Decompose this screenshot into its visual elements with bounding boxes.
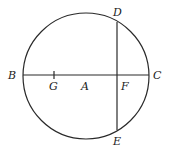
circle-diagram: B C D E G A F [0,0,173,151]
label-f: F [120,80,129,93]
label-g: G [49,80,58,93]
circle [23,13,149,139]
label-e: E [112,135,121,148]
label-d: D [112,6,122,19]
label-c: C [153,69,162,82]
label-b: B [7,69,16,82]
label-a: A [80,80,89,93]
